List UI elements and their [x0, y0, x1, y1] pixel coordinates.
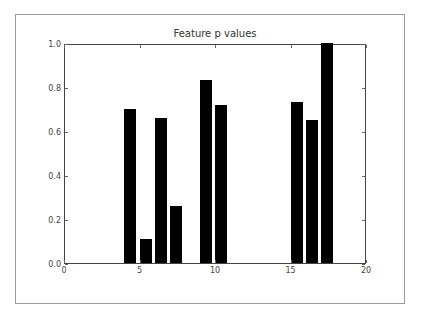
bar [155, 118, 167, 263]
chart-title: Feature p values [64, 28, 366, 39]
y-tick-label: 0.8 [48, 84, 61, 93]
tick-mark [140, 45, 141, 48]
tick-mark [366, 260, 367, 263]
x-tick-label: 10 [210, 266, 220, 275]
tick-mark [140, 260, 141, 263]
tick-mark [64, 45, 65, 48]
tick-mark [65, 176, 68, 177]
tick-mark [65, 88, 68, 89]
tick-mark [65, 220, 68, 221]
bar [291, 102, 303, 263]
bar [215, 105, 227, 263]
tick-mark [291, 260, 292, 263]
x-tick-label: 20 [361, 266, 371, 275]
bar [140, 239, 152, 263]
tick-mark [65, 264, 68, 265]
tick-mark [362, 220, 365, 221]
y-tick-label: 0.6 [48, 128, 61, 137]
y-tick-label: 0.4 [48, 172, 61, 181]
bar [170, 206, 182, 263]
tick-mark [362, 44, 365, 45]
x-tick-label: 15 [285, 266, 295, 275]
tick-mark [215, 260, 216, 263]
plot-area [64, 44, 366, 264]
bar [200, 80, 212, 263]
tick-mark [291, 45, 292, 48]
y-tick-label: 0.0 [48, 260, 61, 269]
x-tick-label: 5 [137, 266, 142, 275]
tick-mark [65, 132, 68, 133]
y-tick-label: 0.2 [48, 216, 61, 225]
bar [306, 120, 318, 263]
tick-mark [215, 45, 216, 48]
tick-mark [65, 44, 68, 45]
bar [321, 43, 333, 263]
y-tick-label: 1.0 [48, 40, 61, 49]
tick-mark [362, 88, 365, 89]
tick-mark [366, 45, 367, 48]
x-tick-label: 0 [61, 266, 66, 275]
tick-mark [362, 176, 365, 177]
bar [124, 109, 136, 263]
tick-mark [64, 260, 65, 263]
tick-mark [362, 132, 365, 133]
tick-mark [362, 264, 365, 265]
